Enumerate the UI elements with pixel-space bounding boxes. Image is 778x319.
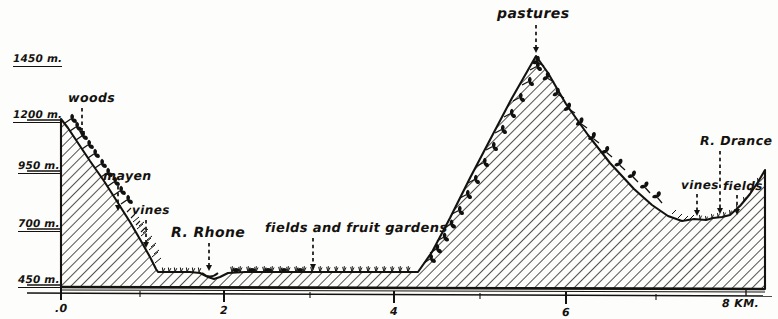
annotation-vines-left: vines — [132, 204, 170, 216]
x-tick-label-2: 2 — [220, 305, 228, 316]
annotation-fields-and-fruit-gardens: fields and fruit gardens — [265, 222, 448, 235]
annotation-mayen: mayen — [103, 170, 152, 183]
annotation-fields-right: fields — [723, 180, 763, 192]
y-tick-label-700: 700 m. — [18, 219, 60, 232]
annotation-pastures: pastures — [497, 7, 569, 21]
y-tick-label-1450: 1450 m. — [13, 54, 62, 67]
figure-canvas: 1450 m. 1200 m. 950 m. 700 m. 450 m. .0 … — [0, 0, 778, 319]
base-ground-line — [61, 287, 765, 292]
x-tick-label-6: 6 — [562, 307, 570, 318]
x-tick-label-0: .0 — [55, 303, 68, 314]
x-axis-unit-label: 8 KM. — [722, 298, 759, 309]
y-tick-label-950: 950 m. — [18, 161, 60, 174]
y-tick-label-450: 450 m. — [18, 275, 60, 288]
annotation-woods: woods — [68, 92, 115, 105]
annotation-vines-right: vines — [681, 179, 719, 191]
annotation-river-rhone: R. Rhone — [171, 226, 245, 240]
terrain-landmass — [61, 56, 765, 289]
x-tick-label-4: 4 — [390, 306, 398, 317]
cross-section-drawing — [0, 0, 778, 319]
y-gridlines — [27, 119, 61, 290]
y-tick-label-1200: 1200 m. — [13, 110, 62, 123]
annotation-river-drance: R. Drance — [700, 135, 772, 148]
